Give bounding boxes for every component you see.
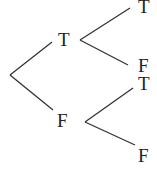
edge-T-to-F: [80, 40, 128, 65]
tree-diagram: T F T F T F: [0, 0, 157, 169]
edge-root-to-T: [10, 42, 52, 75]
edge-F-to-T: [85, 88, 133, 122]
node-level1-top: T: [58, 29, 70, 50]
edge-F-to-F: [85, 122, 135, 145]
lower-branch-edges: [85, 88, 135, 145]
node-level2-bottom-bottom: F: [138, 145, 149, 166]
root-edges: [10, 42, 53, 110]
node-level2-top-top: T: [138, 0, 150, 17]
node-level2-bottom-top: T: [138, 73, 150, 94]
upper-branch-edges: [80, 8, 130, 65]
edge-root-to-F: [10, 75, 53, 110]
node-level1-bottom: F: [57, 110, 68, 131]
edge-T-to-T: [80, 8, 130, 40]
